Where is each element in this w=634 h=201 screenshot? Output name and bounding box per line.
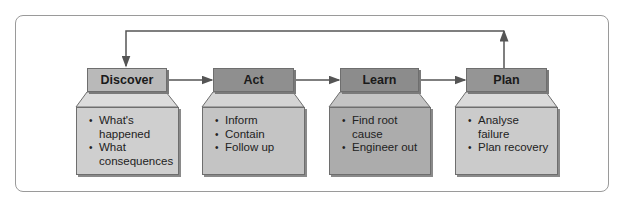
list-item: What's happened xyxy=(89,114,170,141)
stage-learn-header: Learn xyxy=(340,68,419,92)
list-item: Contain xyxy=(215,128,296,142)
stage-plan-header: Plan xyxy=(466,68,547,92)
list-item: Find root cause xyxy=(342,114,422,141)
stage-learn-title: Learn xyxy=(362,73,396,87)
stage-plan-body: Analyse failure Plan recovery xyxy=(455,107,558,175)
stage-discover-title: Discover xyxy=(101,73,154,87)
learn-shoulder xyxy=(329,92,430,107)
list-item: Follow up xyxy=(215,141,296,155)
list-item: Analyse failure xyxy=(468,114,549,141)
list-item: What consequences xyxy=(89,141,170,168)
list-item: Plan recovery xyxy=(468,141,549,155)
stage-discover-header: Discover xyxy=(87,68,167,92)
stage-plan-title: Plan xyxy=(493,73,519,87)
stage-act-body: Inform Contain Follow up xyxy=(202,107,305,175)
stage-learn-body: Find root cause Engineer out xyxy=(329,107,431,175)
stage-act-header: Act xyxy=(213,68,294,92)
stage-discover-body: What's happened What consequences xyxy=(76,107,179,175)
list-item: Inform xyxy=(215,114,296,128)
feedback-loop-line xyxy=(126,31,504,66)
list-item: Engineer out xyxy=(342,141,422,155)
act-shoulder xyxy=(202,92,304,107)
stage-act-title: Act xyxy=(243,73,263,87)
discover-shoulder xyxy=(76,92,178,107)
plan-shoulder xyxy=(455,92,557,107)
